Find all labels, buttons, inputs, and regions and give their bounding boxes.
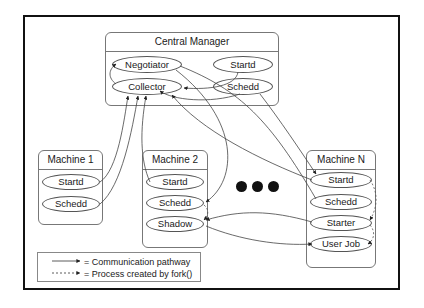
legend: = Communication pathway = Process create… (37, 252, 201, 282)
legend-communication: = Communication pathway (84, 256, 190, 268)
legend-fork: = Process created by fork() (84, 268, 192, 280)
